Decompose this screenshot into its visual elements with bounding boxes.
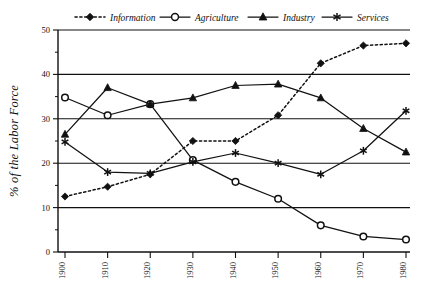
legend-label: Agriculture bbox=[194, 13, 238, 23]
marker-diamond-icon bbox=[275, 112, 282, 119]
marker-triangle-icon bbox=[274, 80, 281, 87]
marker-circle-icon bbox=[62, 94, 69, 101]
legend-item-services: Services bbox=[322, 13, 389, 23]
x-tick-label: 1940 bbox=[228, 262, 238, 279]
marker-diamond-icon bbox=[61, 193, 68, 200]
marker-triangle-icon bbox=[402, 148, 409, 155]
marker-circle-icon bbox=[275, 195, 282, 202]
marker-circle-icon bbox=[317, 222, 324, 229]
chart-legend: InformationAgricultureIndustryServices bbox=[75, 13, 389, 23]
x-tick-label: 1960 bbox=[313, 262, 323, 279]
x-tick-label: 1950 bbox=[270, 262, 280, 279]
x-axis: 190019101920193019401950196019701980 bbox=[57, 252, 410, 279]
marker-star-icon bbox=[62, 138, 69, 146]
x-tick-label: 1920 bbox=[142, 262, 152, 279]
x-tick-label: 1900 bbox=[57, 262, 67, 279]
x-tick-label: 1930 bbox=[185, 262, 195, 279]
series-line-information bbox=[65, 43, 406, 196]
marker-diamond-icon bbox=[104, 183, 111, 190]
y-tick-label: 0 bbox=[46, 247, 50, 257]
data-series bbox=[61, 40, 409, 243]
marker-circle-icon bbox=[403, 236, 410, 243]
marker-circle-icon bbox=[360, 233, 367, 240]
legend-item-information: Information bbox=[75, 13, 156, 23]
x-tick-label: 1910 bbox=[100, 262, 110, 279]
marker-triangle-icon bbox=[360, 125, 367, 132]
legend-label: Services bbox=[357, 13, 389, 23]
marker-circle-icon bbox=[104, 112, 111, 119]
legend-item-agriculture: Agriculture bbox=[160, 13, 238, 23]
y-tick-label: 10 bbox=[42, 203, 51, 213]
legend-label: Information bbox=[109, 13, 156, 23]
y-tick-label: 40 bbox=[42, 69, 51, 79]
marker-diamond-icon bbox=[360, 42, 367, 49]
legend-label: Industry bbox=[282, 13, 315, 23]
legend-item-industry: Industry bbox=[248, 13, 315, 23]
marker-triangle-icon bbox=[104, 84, 111, 91]
y-tick-label: 50 bbox=[42, 25, 51, 35]
chart-figure: InformationAgricultureIndustryServices 0… bbox=[0, 0, 427, 286]
labor-force-line-chart: InformationAgricultureIndustryServices 0… bbox=[0, 0, 427, 286]
x-tick-label: 1970 bbox=[355, 262, 365, 279]
y-tick-label: 30 bbox=[42, 114, 51, 124]
marker-diamond-icon bbox=[232, 137, 239, 144]
marker-circle-icon bbox=[232, 179, 239, 186]
series-agriculture bbox=[62, 94, 410, 243]
marker-diamond-icon bbox=[86, 13, 94, 21]
x-tick-label: 1980 bbox=[398, 262, 408, 279]
marker-circle-icon bbox=[172, 14, 179, 21]
y-axis-title: % of the Labor Force bbox=[7, 85, 21, 197]
marker-diamond-icon bbox=[402, 40, 409, 47]
series-information bbox=[61, 40, 409, 200]
y-axis: 01020304050 bbox=[42, 25, 59, 257]
y-axis-title-label: % of the Labor Force bbox=[7, 85, 21, 197]
y-tick-label: 20 bbox=[42, 158, 51, 168]
